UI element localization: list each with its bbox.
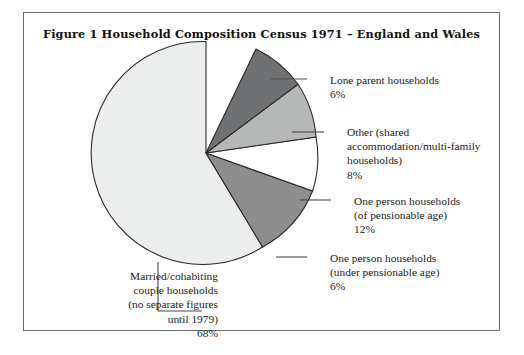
callout-lone-parent-value: 6% (330, 87, 439, 101)
callout-married-label-line2: couple households (134, 284, 218, 296)
callout-married-cohabiting: Married/cohabiting couple households (no… (55, 269, 218, 340)
figure-frame: Figure 1 Household Composition Census 19… (23, 12, 500, 331)
callout-other-label-line1: Other (shared (347, 126, 409, 138)
callout-married-value: 68% (55, 326, 218, 340)
callout-pensionable-label-line2: (of pensionable age) (354, 209, 447, 221)
callout-under-pensionable-label-line2: (under pensionable age) (330, 266, 439, 278)
callout-lone-parent-households: Lone parent households 6% (330, 73, 439, 101)
callout-other-households: Other (shared accommodation/multi-family… (347, 125, 481, 182)
callout-other-value: 8% (347, 168, 481, 182)
callout-other-label-line3: households) (347, 154, 402, 166)
callout-one-person-under-pensionable: One person households (under pensionable… (330, 251, 439, 294)
callout-married-label-line3: (no separate figures (128, 298, 218, 310)
callout-under-pensionable-value: 6% (330, 279, 439, 293)
callout-married-label-line1: Married/cohabiting (130, 270, 218, 282)
callout-pensionable-value: 12% (354, 222, 460, 236)
callout-under-pensionable-label-line1: One person households (330, 252, 436, 264)
callout-married-label-line4: until 1979) (168, 313, 218, 325)
callout-other-label-line2: accommodation/multi-family (347, 140, 481, 152)
callout-one-person-pensionable: One person households (of pensionable ag… (354, 194, 460, 237)
callout-lone-parent-label-line1: Lone parent households (330, 74, 439, 86)
callout-pensionable-label-line1: One person households (354, 195, 460, 207)
